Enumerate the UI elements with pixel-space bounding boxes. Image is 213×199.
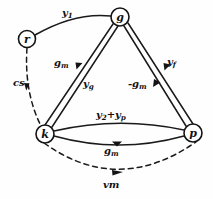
node-r[interactable]: r (19, 31, 36, 48)
edge-r-g (35, 15, 111, 35)
node-p-label: p (189, 127, 197, 140)
arrowhead-gm-gk (76, 63, 83, 70)
signal-flow-graph: r g k p y1 cs gm yg -gm yf y2+yp gm vm (0, 0, 213, 199)
arrowhead-vm (112, 170, 123, 176)
edge-label-y2-plus-yp: y2+yp (96, 110, 126, 120)
edge-label-y1: y1 (62, 8, 73, 18)
edge-label-yf: yf (167, 57, 176, 67)
edge-k-p-upper (54, 123, 184, 131)
node-p[interactable]: p (184, 124, 202, 142)
edge-g-p-outer (128, 23, 193, 124)
edge-label-gm-kp: gm (104, 146, 118, 156)
edge-g-p-inner (124, 26, 186, 126)
graph-canvas: r g k p (0, 0, 213, 199)
node-g[interactable]: g (111, 8, 129, 26)
node-k-label: k (41, 128, 49, 141)
edge-k-p-arc (44, 142, 196, 169)
node-g-label: g (116, 11, 124, 24)
node-k[interactable]: k (36, 125, 54, 143)
edge-r-k (27, 48, 41, 126)
edge-label-gm-gk: gm (54, 58, 68, 68)
edge-label-neg-gm: -gm (128, 79, 146, 89)
edge-label-vm: vm (103, 180, 119, 190)
edge-label-yg: yg (83, 79, 94, 89)
edge-label-cs: cs (13, 78, 25, 88)
